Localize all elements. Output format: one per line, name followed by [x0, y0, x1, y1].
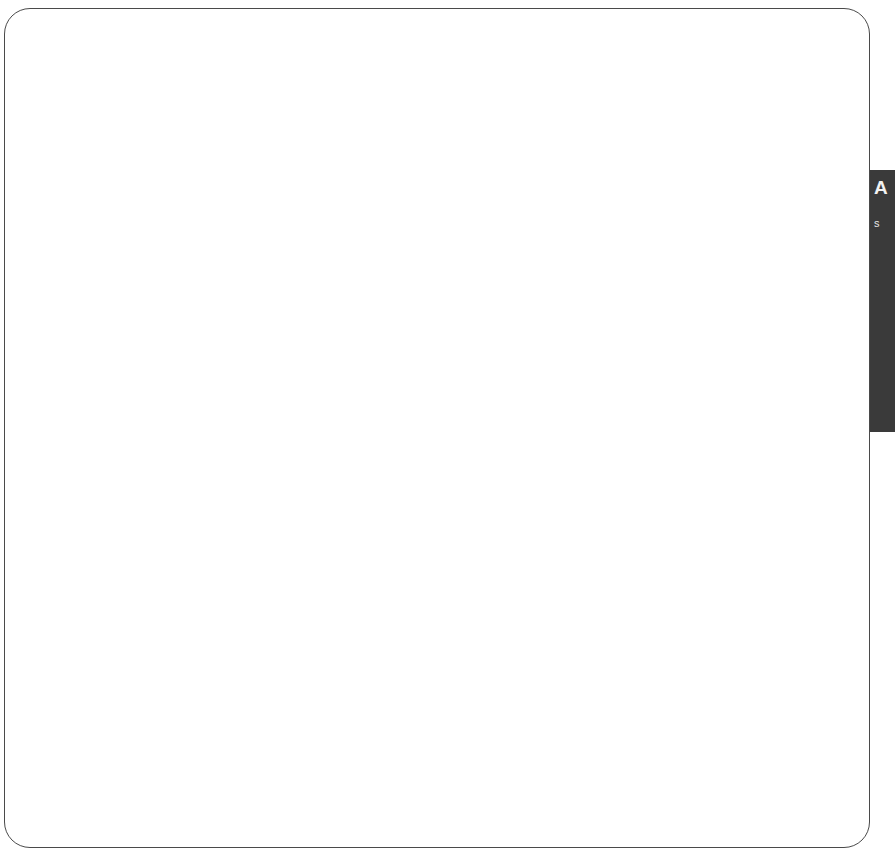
page-border-frame — [4, 8, 870, 848]
side-panel: A s — [868, 170, 895, 432]
side-panel-heading: A — [868, 170, 895, 199]
side-panel-subtext: s — [868, 199, 895, 230]
